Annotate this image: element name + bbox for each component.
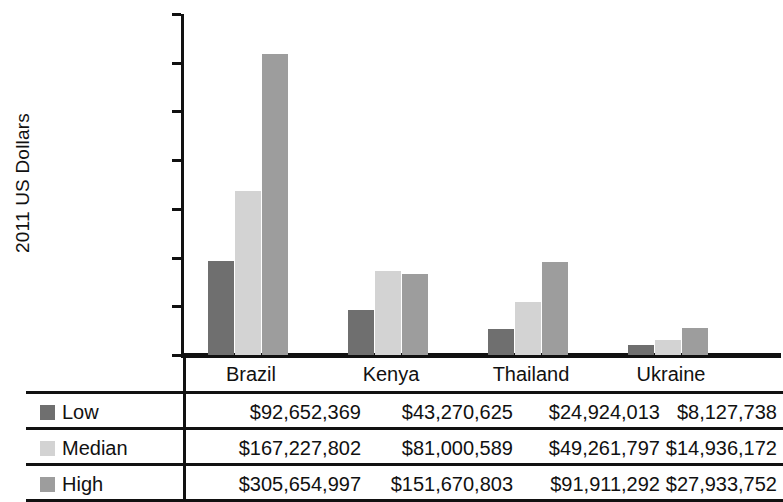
bar-thailand-median [515,302,541,355]
bar-ukraine-high [682,328,708,355]
category-label-kenya: Kenya [321,358,461,391]
legend-entry-median: Median [26,430,183,466]
y-axis-title: 2011 US Dollars [12,68,34,298]
table-row: Low$92,652,369$43,270,625$24,924,013$8,1… [26,391,783,430]
y-axis-tick-mark [172,208,181,211]
table-cell-brazil-median: $167,227,802 [183,430,361,466]
legend-swatch-icon [40,441,55,456]
category-label-thailand: Thailand [461,358,601,391]
table-row: Median$167,227,802$81,000,589$49,261,797… [26,427,783,466]
legend-label: High [62,473,103,496]
legend-entry-low: Low [26,394,183,430]
bar-brazil-high [262,54,288,355]
y-axis-tick-mark [172,62,181,65]
bar-kenya-median [375,271,401,355]
plot-area [183,14,781,355]
y-axis-tick-mark [172,110,181,113]
bar-group [628,14,708,355]
bar-group [208,14,288,355]
table-cell-ukraine-high: $27,933,752 [623,466,777,502]
category-label-row: BrazilKenyaThailandUkraine [183,358,783,391]
table-cell-kenya-low: $43,270,625 [367,394,513,430]
legend-label: Median [62,437,128,460]
bar-brazil-low [208,261,234,355]
y-axis-tick-mark [172,13,181,16]
bar-thailand-low [488,329,514,355]
table-cell-brazil-high: $305,654,997 [183,466,361,502]
y-axis-tick-mark [172,257,181,260]
table-cell-kenya-median: $81,000,589 [367,430,513,466]
bar-group [488,14,568,355]
y-axis-tick-mark [172,159,181,162]
bar-ukraine-low [628,345,654,355]
bar-kenya-high [402,274,428,355]
table-cell-ukraine-low: $8,127,738 [623,394,777,430]
category-label-ukraine: Ukraine [601,358,741,391]
bar-thailand-high [542,262,568,355]
legend-label: Low [62,401,99,424]
legend-swatch-icon [40,477,55,492]
y-axis-tick-mark [172,305,181,308]
table-cell-kenya-high: $151,670,803 [367,466,513,502]
bar-group [348,14,428,355]
bar-kenya-low [348,310,374,355]
bar-ukraine-median [655,340,681,355]
table-cell-brazil-low: $92,652,369 [183,394,361,430]
y-axis-tick-mark [172,354,181,357]
legend-swatch-icon [40,405,55,420]
bar-brazil-median [235,191,261,355]
category-label-brazil: Brazil [181,358,321,391]
table-row: High$305,654,997$151,670,803$91,911,292$… [26,463,783,502]
legend-entry-high: High [26,466,183,502]
table-cell-ukraine-median: $14,936,172 [623,430,777,466]
data-table: Low$92,652,369$43,270,625$24,924,013$8,1… [26,391,783,499]
